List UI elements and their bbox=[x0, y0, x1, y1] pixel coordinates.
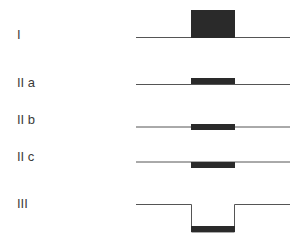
row-III-graphic bbox=[136, 205, 290, 233]
row-I-graphic bbox=[136, 10, 290, 38]
row-IIb-graphic bbox=[136, 124, 290, 130]
row-IIa-graphic bbox=[136, 78, 290, 85]
diagram-canvas bbox=[0, 0, 308, 242]
row-IIc-graphic bbox=[136, 162, 290, 168]
